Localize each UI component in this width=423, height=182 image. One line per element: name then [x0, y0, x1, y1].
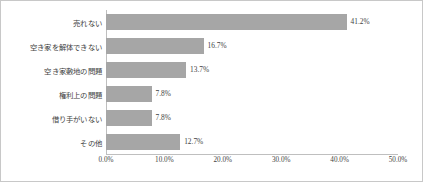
- bar-row: 16.7%: [106, 34, 398, 58]
- category-tick: その他: [9, 130, 105, 154]
- bar-chart-figure: 売れない 空き家を解体できない 空き家敷地の問題 権利上の問題 借り手がいない …: [0, 0, 423, 182]
- bar: [106, 38, 204, 54]
- category-label: 権利上の問題: [59, 89, 105, 100]
- category-label: その他: [80, 137, 105, 148]
- category-tick: 売れない: [9, 10, 105, 34]
- x-axis-tick-label: 0.0%: [99, 156, 114, 164]
- bar-row: 7.8%: [106, 106, 398, 130]
- x-axis-tick-label: 50.0%: [389, 156, 408, 164]
- bar: [106, 14, 347, 30]
- bar-value-label: 41.2%: [347, 14, 370, 30]
- bar-row: 13.7%: [106, 58, 398, 82]
- x-axis-ticks: 0.0%10.0%20.0%30.0%40.0%50.0%: [106, 156, 398, 170]
- category-tick: 権利上の問題: [9, 82, 105, 106]
- bar: [106, 86, 152, 102]
- bar-value-label: 7.8%: [152, 110, 171, 126]
- plot-area: 41.2% 16.7% 13.7% 7.8% 7.8% 12.7%: [106, 10, 398, 154]
- category-tick: 空き家を解体できない: [9, 34, 105, 58]
- x-axis-line: [106, 154, 398, 155]
- bar: [106, 62, 186, 78]
- x-axis-tick-label: 30.0%: [272, 156, 291, 164]
- category-label: 売れない: [73, 17, 105, 28]
- category-label: 空き家敷地の問題: [44, 65, 105, 76]
- bar-value-label: 7.8%: [152, 86, 171, 102]
- x-axis-tick-label: 10.0%: [155, 156, 174, 164]
- bar: [106, 134, 180, 150]
- bar-value-label: 12.7%: [180, 134, 203, 150]
- bar-row: 7.8%: [106, 82, 398, 106]
- bar-value-label: 13.7%: [186, 62, 209, 78]
- category-axis: 売れない 空き家を解体できない 空き家敷地の問題 権利上の問題 借り手がいない …: [9, 10, 105, 154]
- bar-row: 12.7%: [106, 130, 398, 154]
- x-axis-tick-label: 40.0%: [330, 156, 349, 164]
- category-tick: 借り手がいない: [9, 106, 105, 130]
- x-axis-tick-label: 20.0%: [214, 156, 233, 164]
- category-tick: 空き家敷地の問題: [9, 58, 105, 82]
- bar-row: 41.2%: [106, 10, 398, 34]
- category-label: 空き家を解体できない: [30, 41, 105, 52]
- category-label: 借り手がいない: [52, 113, 105, 124]
- bar-value-label: 16.7%: [204, 38, 227, 54]
- bar: [106, 110, 152, 126]
